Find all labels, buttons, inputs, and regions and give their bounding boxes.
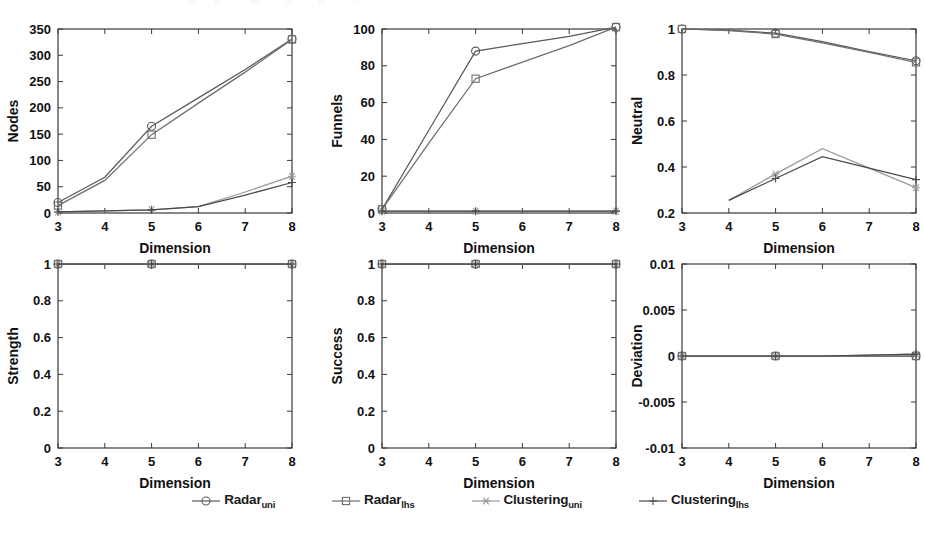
chart-deviation: -0.01-0.00500.0050.01345678DimensionDevi…	[624, 253, 925, 496]
y-tick-label: 20	[361, 169, 375, 184]
legend-label: Clusteringlhs	[671, 492, 749, 510]
y-tick-label: 100	[29, 153, 51, 168]
subplot-nodes: 050100150200250300350345678DimensionNode…	[0, 18, 318, 261]
y-tick-label: 150	[29, 127, 51, 142]
x-tick-label: 4	[725, 454, 733, 469]
y-tick-label: 1	[368, 257, 375, 272]
x-tick-label: 6	[195, 219, 202, 234]
x-tick-label: 8	[912, 454, 919, 469]
chart-neutral: 0.20.40.60.81345678DimensionNeutral	[624, 18, 925, 261]
y-tick-label: 0.8	[33, 293, 51, 308]
legend-label: Radarlhs	[364, 492, 414, 510]
x-tick-label: 6	[195, 454, 202, 469]
y-tick-label: 0	[44, 206, 51, 221]
x-tick-label: 3	[54, 219, 61, 234]
y-tick-label: 0	[668, 349, 675, 364]
plus-marker	[638, 494, 668, 508]
x-tick-label: 6	[819, 219, 826, 234]
y-tick-label: 0.2	[657, 206, 675, 221]
plot-frame	[382, 264, 616, 448]
y-tick-label: 0	[368, 206, 375, 221]
x-axis-label: Dimension	[763, 475, 835, 491]
legend-item-clustering-uni[interactable]: Clusteringuni	[471, 492, 582, 510]
x-tick-label: 8	[612, 454, 619, 469]
y-tick-label: 0.01	[650, 257, 675, 272]
y-tick-label: 100	[353, 22, 375, 37]
y-tick-label: 80	[361, 58, 375, 73]
y-axis-label: Success	[329, 327, 345, 384]
y-tick-label: 300	[29, 48, 51, 63]
x-tick-label: 7	[866, 454, 873, 469]
x-tick-label: 5	[472, 219, 479, 234]
plot-frame	[382, 29, 616, 213]
asterisk-marker	[471, 494, 501, 508]
x-tick-label: 3	[678, 454, 685, 469]
x-axis-label: Dimension	[139, 475, 211, 491]
legend-label: Radaruni	[224, 492, 275, 510]
subplot-funnels: 020406080100345678DimensionFunnels	[324, 18, 642, 261]
legend-item-radar-lhs[interactable]: Radarlhs	[331, 492, 414, 510]
x-tick-label: 7	[866, 219, 873, 234]
y-tick-label: 0.6	[33, 330, 51, 345]
y-axis-label: Neutral	[629, 97, 645, 145]
x-tick-label: 8	[612, 219, 619, 234]
legend-label-subscript: lhs	[736, 499, 749, 510]
y-tick-label: 0.6	[657, 114, 675, 129]
x-tick-label: 4	[725, 219, 733, 234]
y-tick-label: 0.005	[642, 303, 675, 318]
y-tick-label: 0.8	[657, 68, 675, 83]
y-tick-label: 0	[44, 441, 51, 456]
x-tick-label: 6	[819, 454, 826, 469]
legend-item-clustering-lhs[interactable]: Clusteringlhs	[638, 492, 749, 510]
x-tick-label: 3	[54, 454, 61, 469]
subplot-neutral: 0.20.40.60.81345678DimensionNeutral	[624, 18, 925, 261]
y-tick-label: -0.005	[638, 395, 675, 410]
x-tick-label: 8	[912, 219, 919, 234]
x-tick-label: 4	[101, 219, 109, 234]
x-tick-label: 3	[678, 219, 685, 234]
y-tick-label: 0.2	[357, 404, 375, 419]
legend-item-radar-uni[interactable]: Radaruni	[191, 492, 275, 510]
plot-frame	[58, 29, 292, 213]
chart-nodes: 050100150200250300350345678DimensionNode…	[0, 18, 318, 261]
y-axis-label: Nodes	[5, 99, 21, 142]
plot-frame	[58, 264, 292, 448]
figure-legend: RadaruniRadarlhsClusteringuniClusteringl…	[0, 492, 910, 526]
x-tick-label: 4	[425, 219, 433, 234]
x-tick-label: 7	[242, 454, 249, 469]
y-tick-label: 0	[368, 441, 375, 456]
y-tick-label: 0.4	[33, 367, 52, 382]
y-tick-label: 0.8	[357, 293, 375, 308]
x-tick-label: 8	[288, 454, 295, 469]
y-tick-label: 0.2	[33, 404, 51, 419]
legend-row: RadaruniRadarlhsClusteringuniClusteringl…	[0, 492, 910, 510]
y-tick-label: 0.4	[357, 367, 376, 382]
scan-artifact	[0, 0, 910, 18]
chart-success: 00.20.40.60.81345678DimensionSuccess	[324, 253, 642, 496]
subplot-strength: 00.20.40.60.81345678DimensionStrength	[0, 253, 318, 496]
x-tick-label: 5	[148, 219, 155, 234]
x-tick-label: 5	[772, 219, 779, 234]
x-tick-label: 4	[425, 454, 433, 469]
legend-label-subscript: uni	[568, 499, 582, 510]
square-marker	[331, 494, 361, 508]
x-tick-label: 6	[519, 219, 526, 234]
x-axis-label: Dimension	[463, 475, 535, 491]
y-tick-label: 0.6	[357, 330, 375, 345]
x-tick-label: 3	[378, 454, 385, 469]
y-tick-label: 60	[361, 95, 375, 110]
x-tick-label: 5	[472, 454, 479, 469]
x-tick-label: 3	[378, 219, 385, 234]
circle-marker	[191, 494, 221, 508]
y-tick-label: 40	[361, 132, 375, 147]
x-tick-label: 8	[288, 219, 295, 234]
y-tick-label: 350	[29, 22, 51, 37]
legend-label-subscript: uni	[261, 499, 275, 510]
x-tick-label: 7	[566, 219, 573, 234]
y-tick-label: -0.01	[645, 441, 675, 456]
subplot-deviation: -0.01-0.00500.0050.01345678DimensionDevi…	[624, 253, 925, 496]
y-tick-label: 0.4	[657, 160, 676, 175]
plot-frame	[682, 29, 916, 213]
y-axis-label: Strength	[5, 327, 21, 385]
